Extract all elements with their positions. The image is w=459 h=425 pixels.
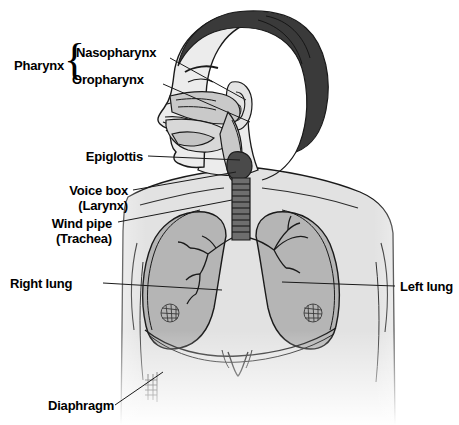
label-right-lung: Right lung <box>10 276 72 291</box>
label-oropharynx: Oropharynx <box>72 72 144 87</box>
label-nasopharynx: Nasopharynx <box>76 45 156 60</box>
label-voice-box-line1: Voice box <box>10 183 128 198</box>
label-wind-pipe-line2: (Trachea) <box>2 231 112 246</box>
label-epiglottis: Epiglottis <box>18 149 143 164</box>
label-diaphragm: Diaphragm <box>48 398 114 413</box>
label-wind-pipe-line1: Wind pipe <box>2 216 112 231</box>
respiratory-system-diagram: Pharynx { Nasopharynx Oropharynx Epiglot… <box>0 0 459 425</box>
side-fade <box>110 180 410 425</box>
label-pharynx: Pharynx <box>2 58 64 73</box>
label-voice-box-line2: (Larynx) <box>10 198 128 213</box>
label-left-lung: Left lung <box>400 279 453 294</box>
